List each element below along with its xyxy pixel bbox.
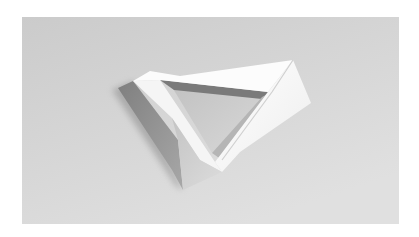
photo-frame bbox=[0, 0, 419, 237]
photo bbox=[0, 0, 419, 237]
